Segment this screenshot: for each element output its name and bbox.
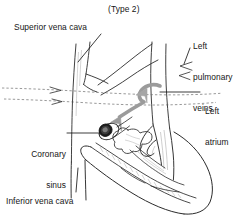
figure-title: (Type 2) [108, 4, 140, 14]
flow-direction-marks-pulmonary-veins [179, 62, 192, 80]
leader-inferior-vena-cava [76, 168, 78, 192]
label-coronary-sinus-line2: sinus [18, 180, 66, 190]
ventricle-outline [81, 132, 213, 214]
label-left-atrium-line2: atrium [205, 137, 229, 147]
label-coronary-sinus-line1: Coronary [18, 149, 66, 159]
inferior-vena-cava-vessel [71, 160, 86, 200]
leader-superior-vena-cava [78, 34, 101, 62]
label-left-pulmonary-veins-line1: Left [193, 41, 233, 51]
figure-container: (Type 2) Superior vena cava Left pulmona… [0, 0, 248, 216]
label-inferior-vena-cava: Inferior vena cava [6, 196, 73, 206]
left-atrium-shading [152, 130, 167, 170]
right-atrial-appendage-shading [125, 134, 140, 145]
leader-left-pulmonary-veins [184, 48, 190, 64]
svc-shading [76, 50, 81, 116]
svc-atrium-junction [84, 74, 108, 92]
label-left-pulmonary-veins-line2: pulmonary [193, 72, 233, 82]
label-superior-vena-cava: Superior vena cava [14, 22, 87, 32]
dashed-contour-lines [2, 88, 222, 105]
label-left-atrium: Left atrium [205, 85, 229, 168]
label-left-atrium-line1: Left [205, 106, 229, 116]
